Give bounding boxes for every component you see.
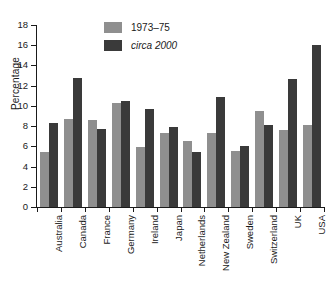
y-tick-label: 10 (17, 101, 28, 111)
x-tick-mark (85, 208, 86, 212)
y-tick-mark (31, 65, 36, 66)
y-tick-mark (31, 167, 36, 168)
x-label-cell: Australia (37, 213, 61, 282)
y-tick-label: 8 (23, 121, 28, 131)
legend-label-1973-75: 1973–75 (131, 22, 170, 33)
x-tick-mark (61, 208, 62, 212)
x-label-cell: UK (276, 213, 300, 282)
bar (255, 111, 264, 207)
bar (88, 120, 97, 207)
x-label-cell: Sweden (228, 213, 252, 282)
x-label-cell: France (85, 213, 109, 282)
bar (279, 130, 288, 207)
bar (240, 146, 249, 207)
x-label-cell: Canada (61, 213, 85, 282)
x-tick-mark (228, 208, 229, 212)
x-tick-mark (276, 208, 277, 212)
x-label-cell: Japan (157, 213, 181, 282)
bar (145, 109, 154, 207)
bar (303, 125, 312, 207)
bar (207, 133, 216, 207)
bar (216, 97, 225, 207)
x-tick-mark (204, 208, 205, 212)
bar-chart: Percentage 024681012141618 AustraliaCana… (0, 0, 331, 282)
x-label-cell: Germany (109, 213, 133, 282)
bar-group (37, 25, 61, 207)
bar (64, 119, 73, 207)
y-tick-label: 12 (17, 81, 28, 91)
bar-group (228, 25, 252, 207)
bar-group (61, 25, 85, 207)
x-axis-labels: AustraliaCanadaFranceGermanyIrelandJapan… (37, 213, 324, 282)
bar-group (276, 25, 300, 207)
x-tick-mark (300, 208, 301, 212)
bar (183, 141, 192, 207)
x-label-cell: USA (300, 213, 324, 282)
y-tick-label: 6 (23, 142, 28, 152)
y-tick-mark (31, 126, 36, 127)
bar-groups (37, 25, 324, 207)
y-tick-label: 0 (23, 202, 28, 212)
x-tick-mark (324, 208, 325, 212)
bar (136, 147, 145, 207)
bar (97, 129, 106, 207)
y-tick-mark (31, 187, 36, 188)
y-tick-label: 16 (17, 40, 28, 50)
legend-swatch-1973-75 (104, 22, 122, 33)
y-tick-mark (31, 207, 36, 208)
bar (160, 133, 169, 207)
y-tick-label: 14 (17, 61, 28, 71)
bar (40, 152, 49, 207)
bar (112, 103, 121, 207)
x-axis-ticks (37, 208, 324, 212)
y-tick-mark (31, 45, 36, 46)
x-label-cell: Ireland (133, 213, 157, 282)
y-tick-label: 4 (23, 162, 28, 172)
x-tick-mark (252, 208, 253, 212)
bar-group (300, 25, 324, 207)
bar (192, 152, 201, 207)
y-tick-label: 2 (23, 182, 28, 192)
x-tick-mark (109, 208, 110, 212)
y-tick-mark (31, 106, 36, 107)
bar-group (252, 25, 276, 207)
y-tick-mark (31, 25, 36, 26)
bar (288, 79, 297, 207)
y-tick-mark (31, 146, 36, 147)
y-tick-label: 18 (17, 20, 28, 30)
y-tick-mark (31, 86, 36, 87)
x-tick-mark (37, 208, 38, 212)
legend-item-series-1: circa 2000 (104, 38, 177, 53)
legend: 1973–75 circa 2000 (104, 20, 177, 56)
legend-item-series-0: 1973–75 (104, 20, 177, 35)
bar (264, 125, 273, 207)
bar-group (204, 25, 228, 207)
bar (121, 101, 130, 207)
x-tick-mark (181, 208, 182, 212)
bar (231, 151, 240, 207)
plot-area: 024681012141618 AustraliaCanadaFranceGer… (36, 25, 324, 207)
x-label-cell: New Zealand (204, 213, 228, 282)
legend-swatch-circa-2000 (104, 40, 122, 51)
x-label-cell: Switzerland (252, 213, 276, 282)
bar (49, 123, 58, 207)
bar (312, 45, 321, 207)
x-tick-mark (133, 208, 134, 212)
x-tick-mark (157, 208, 158, 212)
bar-group (181, 25, 205, 207)
x-tick-label: USA (316, 215, 327, 235)
bar (169, 127, 178, 207)
bar (73, 78, 82, 207)
legend-label-circa-2000: circa 2000 (131, 40, 177, 51)
x-label-cell: Netherlands (181, 213, 205, 282)
